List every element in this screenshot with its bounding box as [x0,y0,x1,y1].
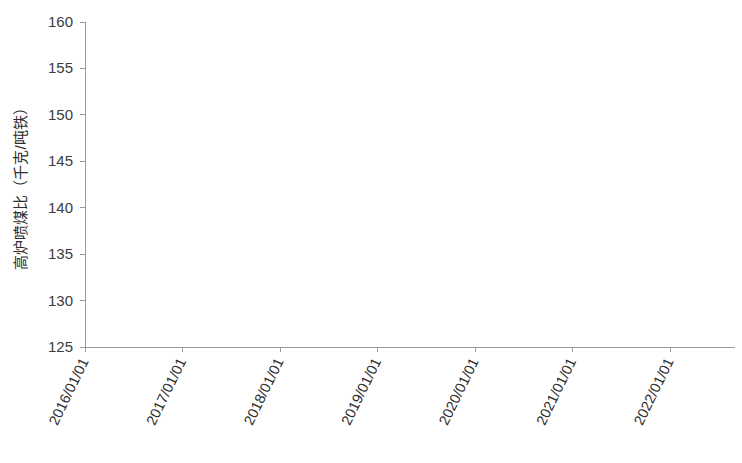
line-chart: 高炉喷煤比（千克/吨铁） 125130135140145150155160 20… [0,0,742,463]
x-axis-ticks: 2016/01/012017/01/012018/01/012019/01/01… [45,347,676,428]
x-tick-label: 2018/01/01 [240,355,286,427]
y-tick-label: 130 [48,292,73,309]
x-tick-label: 2016/01/01 [45,355,91,427]
y-tick-label: 125 [48,338,73,355]
x-tick-label: 2022/01/01 [630,355,676,427]
y-tick-label: 160 [48,13,73,30]
x-tick-label: 2019/01/01 [338,355,384,427]
x-tick-label: 2021/01/01 [533,355,579,427]
y-tick-label: 155 [48,59,73,76]
chart-container: 高炉喷煤比（千克/吨铁） 125130135140145150155160 20… [0,0,742,463]
y-tick-label: 140 [48,199,73,216]
y-tick-label: 135 [48,245,73,262]
y-tick-label: 145 [48,152,73,169]
x-tick-label: 2020/01/01 [435,355,481,427]
x-tick-label: 2017/01/01 [143,355,189,427]
y-axis-title: 高炉喷煤比（千克/吨铁） [12,100,29,269]
y-axis-title-group: 高炉喷煤比（千克/吨铁） [12,100,29,269]
y-axis-ticks: 125130135140145150155160 [48,13,85,355]
y-tick-label: 150 [48,106,73,123]
